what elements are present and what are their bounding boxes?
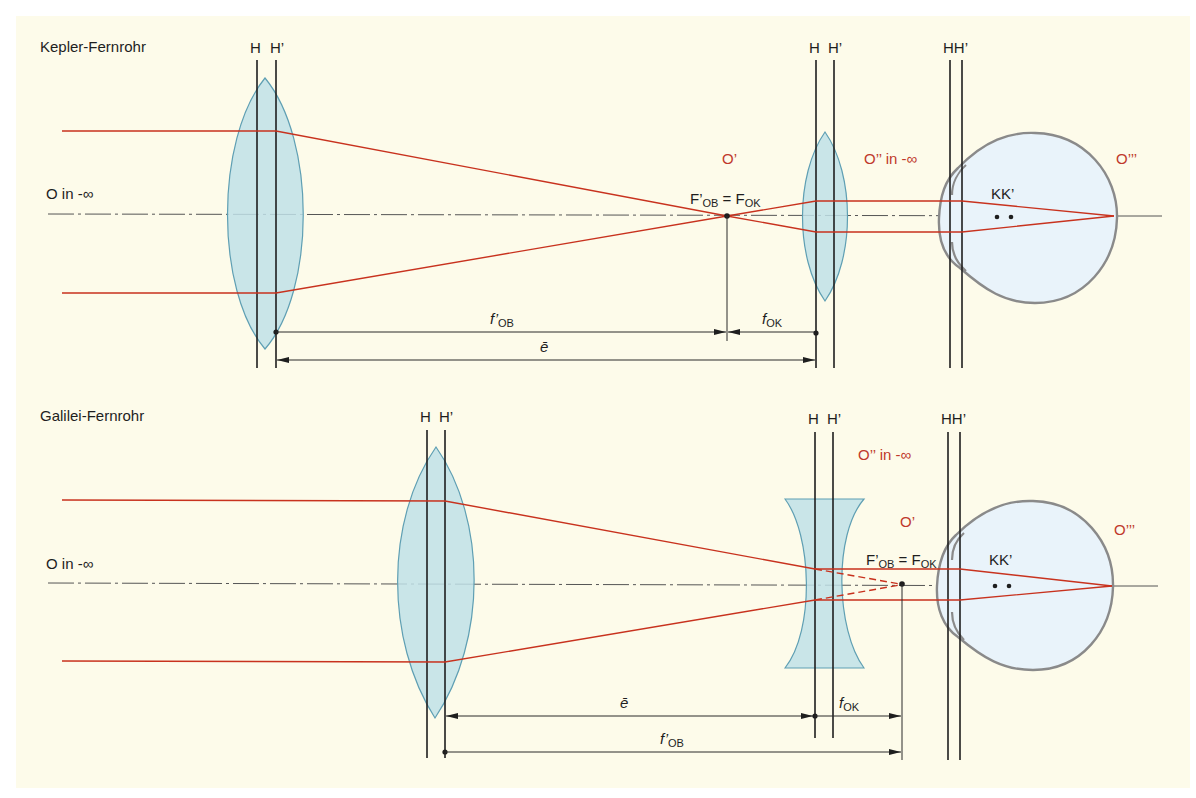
galilei-objective-h-prime-label: H’: [439, 408, 453, 425]
kepler-dim-eyepiece-dot: [813, 330, 818, 335]
galilei-intermediate-image-label: O’: [900, 513, 915, 530]
focus-label-sub: OB: [703, 197, 719, 209]
galilei-title: Galilei-Fernrohr: [40, 407, 144, 424]
telescope-diagram: Kepler-Fernrohr O in -∞ H H’ H H’ HH’: [0, 0, 1196, 798]
dim-label-sub: OK: [843, 701, 860, 713]
kepler-eyepiece-h-label: H: [809, 39, 820, 56]
kepler-nodal-points-label: KK’: [991, 185, 1014, 202]
galilei-nodal-point-k: [993, 584, 998, 589]
galilei-object-label: O in -∞: [46, 555, 94, 572]
dim-label-sub: OK: [766, 317, 783, 329]
kepler-object-label: O in -∞: [46, 185, 94, 202]
focus-label-part: F’: [866, 551, 879, 568]
kepler-retina-image-label: O’’’: [1116, 150, 1137, 167]
kepler-nodal-point-k-prime: [1009, 215, 1014, 220]
kepler-intermediate-image-label: O’: [722, 150, 737, 167]
galilei-nodal-points-label: KK’: [989, 551, 1012, 568]
galilei-eyepiece-h-prime-label: H’: [827, 410, 841, 427]
kepler-virtual-image-label: O’’ in -∞: [864, 150, 918, 167]
diagram-background-panel: [16, 16, 1190, 788]
focus-label-sub: OK: [745, 197, 762, 209]
focus-label-sub: OK: [921, 558, 938, 570]
kepler-objective-h-prime-label: H’: [270, 39, 284, 56]
kepler-eye-hh-label: HH’: [943, 39, 968, 56]
focus-label-sub: OB: [879, 558, 895, 570]
focus-label-part: = F: [718, 190, 744, 207]
galilei-eyepiece-h-label: H: [808, 410, 819, 427]
focus-label-part: F’: [690, 190, 703, 207]
dim-label-sub: OB: [498, 317, 514, 329]
galilei-nodal-point-k-prime: [1007, 584, 1012, 589]
galilei-eye-hh-label: HH’: [941, 410, 966, 427]
kepler-eyepiece-h-prime-label: H’: [828, 39, 842, 56]
galilei-objective-h-label: H: [420, 408, 431, 425]
galilei-dim-e-label: ē: [620, 694, 628, 711]
kepler-dim-e-label: ē: [540, 338, 548, 355]
galilei-retina-image-label: O’’’: [1114, 521, 1135, 538]
kepler-objective-h-label: H: [250, 39, 261, 56]
kepler-nodal-point-k: [995, 215, 1000, 220]
dim-label-sub: OB: [668, 737, 684, 749]
galilei-virtual-image-label: O’’ in -∞: [858, 446, 912, 463]
focus-label-part: = F: [894, 551, 920, 568]
kepler-title: Kepler-Fernrohr: [40, 38, 146, 55]
